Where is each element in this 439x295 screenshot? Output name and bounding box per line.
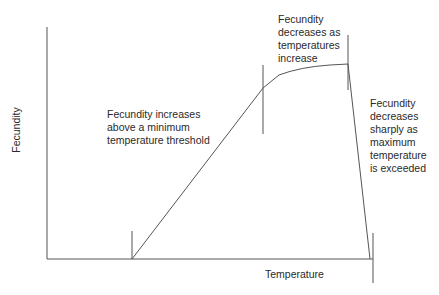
annotation-rising: Fecundity increases above a minimum temp… [107,108,210,147]
x-axis-label: Temperature [265,268,324,280]
annotation-plateau: Fecundity decreases as temperatures incr… [278,13,340,65]
y-axis-label: Fecundity [8,100,24,160]
annotation-falling: Fecundity decreases sharply as maximum t… [370,97,427,175]
fecundity-curve [132,64,370,259]
